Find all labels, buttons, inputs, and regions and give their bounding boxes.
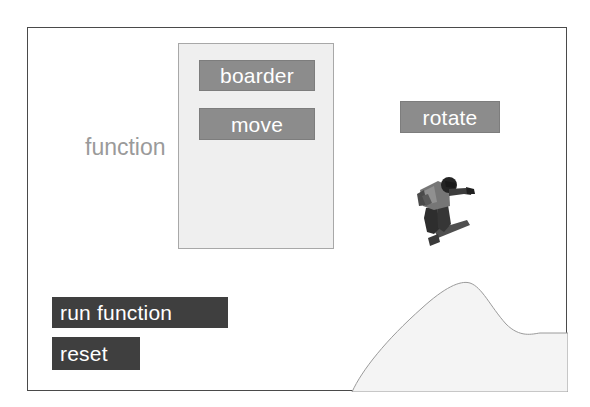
run-function-button[interactable]: run function [52,297,228,328]
snowboarder-sprite[interactable] [404,172,476,256]
block-boarder[interactable]: boarder [199,60,315,91]
ramp-hill [340,268,568,392]
app-stage: function boarder move rotate run functio… [0,0,590,407]
function-label: function [85,136,166,159]
block-rotate[interactable]: rotate [400,101,500,133]
reset-button[interactable]: reset [52,337,140,370]
block-move[interactable]: move [199,108,315,140]
